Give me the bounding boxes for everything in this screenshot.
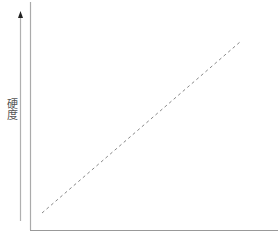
- arrow-up-icon: [18, 11, 23, 18]
- y-axis-label: 硬度: [1, 98, 17, 120]
- trend-line: [42, 42, 240, 213]
- chart-canvas: [0, 0, 278, 236]
